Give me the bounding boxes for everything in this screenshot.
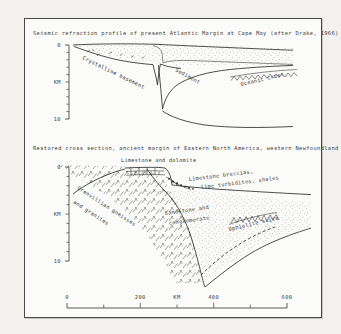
sediment-fill xyxy=(65,39,315,129)
panel-1-ytick-10: 10 xyxy=(54,116,61,122)
xtick-400: 400 xyxy=(208,294,219,300)
label-limestone-and-dolomite: Limestone and dolomite xyxy=(121,157,196,163)
panel-1-yaxis-label: KM xyxy=(54,79,62,85)
panel-2-yaxis-label: KM xyxy=(54,211,62,217)
label-oceanic-crust: Oceanic crust xyxy=(240,71,285,87)
panel-1-ytick-0: 0 xyxy=(57,42,61,48)
panel-2-y-axis: 0 10 KM xyxy=(54,164,69,264)
panel-1-y-axis: 0 10 KM xyxy=(54,42,69,122)
xtick-200: 200 xyxy=(135,294,146,300)
xtick-0: 0 xyxy=(65,294,69,300)
panel-2-diagram: 0 10 KM xyxy=(25,151,323,326)
panel-2-ytick-10: 10 xyxy=(54,258,61,264)
panel-1-diagram: 0 10 KM xyxy=(25,19,323,149)
xtick-600: 600 xyxy=(282,294,293,300)
x-axis-label: KM xyxy=(173,294,181,300)
moho-boundary-line xyxy=(163,111,294,127)
figure-frame: Seismic refraction profile of present At… xyxy=(24,18,322,318)
x-axis: 0 200 KM 400 600 xyxy=(65,294,292,308)
